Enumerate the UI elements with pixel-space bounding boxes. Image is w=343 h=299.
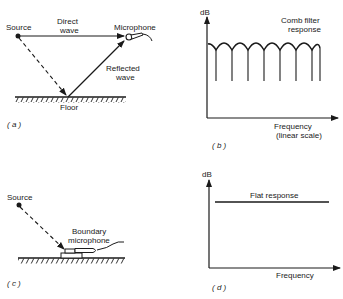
floor-surface — [18, 258, 125, 264]
panel-d: dB Flat response Frequency ( d ) — [202, 170, 340, 292]
floor-label: Floor — [60, 103, 79, 112]
direct-wave-label-2: wave — [59, 26, 79, 35]
incident-wave-arrow — [19, 38, 66, 95]
source-dot — [17, 203, 22, 208]
x-axis-label-2: (linear scale) — [276, 131, 322, 140]
source-label: Source — [7, 193, 33, 202]
x-axis-label: Frequency — [276, 271, 314, 280]
panel-b: dB Comb filter response Frequency (linea… — [200, 8, 338, 150]
direct-wave-label-1: Direct — [57, 17, 79, 26]
comb-filter-label-2: response — [288, 25, 321, 34]
reflected-wave-label-2: wave — [115, 73, 135, 82]
panel-d-label: ( d ) — [212, 283, 227, 292]
panel-c-label: ( c ) — [7, 279, 21, 288]
source-label: Source — [6, 23, 32, 32]
panel-a-label: ( a ) — [7, 120, 22, 129]
y-axis-label: dB — [200, 8, 210, 17]
incident-wave-arrow — [20, 207, 64, 249]
panel-b-label: ( b ) — [212, 141, 227, 150]
boundary-mic-label-2: microphone — [68, 236, 110, 245]
microphone-label: Microphone — [114, 23, 156, 32]
boundary-mic-label-1: Boundary — [72, 227, 106, 236]
panel-c: Source Boundary microphone ( c ) — [7, 193, 125, 288]
comb-filter-label-1: Comb filter — [281, 16, 320, 25]
reflected-wave-label-1: Reflected — [106, 64, 140, 73]
diagram-canvas: Source Direct wave Microphone Reflected … — [0, 0, 343, 299]
y-axis-label: dB — [202, 170, 212, 179]
x-axis-label-1: Frequency — [274, 122, 312, 131]
flat-response-label: Flat response — [250, 191, 299, 200]
comb-notches — [216, 48, 320, 81]
comb-filter-curve — [208, 43, 320, 50]
panel-a: Source Direct wave Microphone Reflected … — [6, 17, 156, 129]
microphone-icon — [126, 33, 152, 41]
floor-surface — [15, 97, 126, 103]
